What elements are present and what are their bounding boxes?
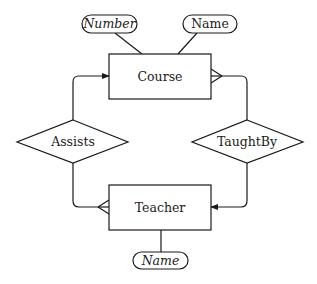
entity-course[interactable]: Course bbox=[109, 54, 211, 99]
edge-taughtby-course bbox=[222, 76, 247, 120]
entity-label: Course bbox=[138, 69, 183, 84]
crows-foot-teacher-icon bbox=[98, 200, 109, 214]
attribute-label: Number bbox=[82, 16, 136, 31]
entity-label: Teacher bbox=[135, 200, 186, 215]
attribute-teacher-name[interactable]: Name bbox=[133, 252, 188, 269]
attribute-label: Name bbox=[141, 253, 180, 268]
relationship-assists[interactable]: Assists bbox=[17, 120, 128, 163]
edge-number-course bbox=[115, 33, 142, 54]
relationship-label: Assists bbox=[50, 134, 95, 149]
relationship-taughtby[interactable]: TaughtBy bbox=[192, 120, 303, 163]
crows-foot-course-icon bbox=[211, 69, 222, 83]
attribute-course-name[interactable]: Name bbox=[183, 15, 237, 33]
edge-assists-teacher bbox=[73, 163, 98, 207]
entity-teacher[interactable]: Teacher bbox=[109, 185, 211, 230]
relationship-label: TaughtBy bbox=[217, 134, 278, 149]
edge-assists-course bbox=[73, 76, 109, 120]
er-diagram: Number Name Course Assists TaughtBy Teac… bbox=[0, 0, 317, 284]
edge-taughtby-teacher bbox=[211, 163, 247, 207]
edge-name-course bbox=[178, 33, 197, 54]
attribute-course-number[interactable]: Number bbox=[82, 15, 137, 33]
attribute-label: Name bbox=[191, 16, 229, 31]
